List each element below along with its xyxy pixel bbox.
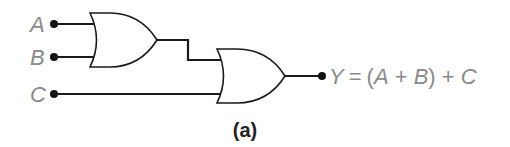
wire-or1-to-or2 bbox=[157, 40, 224, 60]
input-label-b: B bbox=[30, 45, 45, 70]
input-label-c: C bbox=[30, 82, 46, 107]
figure-caption: (a) bbox=[233, 119, 257, 141]
logic-circuit-diagram: A B C Y=(A + B) + C (a) bbox=[0, 0, 510, 147]
input-label-a: A bbox=[28, 12, 45, 37]
output-terminal-y bbox=[318, 72, 326, 80]
output-equation: Y=(A + B) + C bbox=[329, 64, 477, 89]
or-gate-2 bbox=[217, 49, 285, 103]
or-gate-1 bbox=[90, 13, 157, 67]
